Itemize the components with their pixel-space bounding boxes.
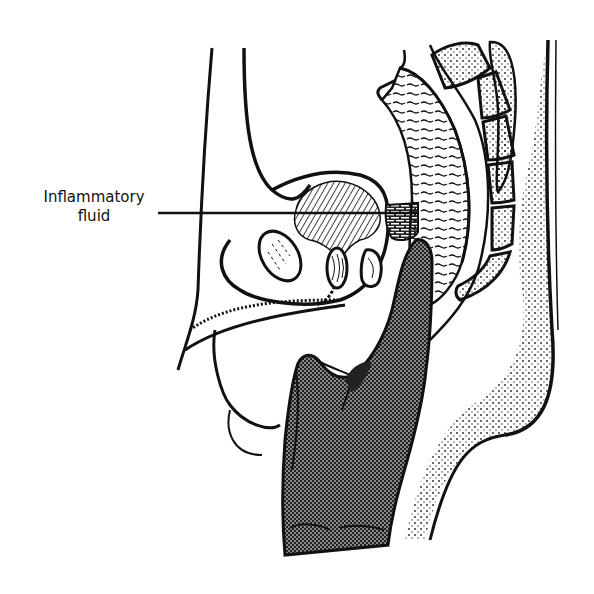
anatomy-drawing: [0, 0, 594, 594]
label-line-1: Inflammatory: [28, 188, 160, 207]
abdominal-wall: [178, 48, 212, 370]
anatomy-figure: Inflammatory fluid: [0, 0, 594, 594]
prostate-apex: [361, 250, 381, 287]
label-inflammatory-fluid: Inflammatory fluid: [28, 188, 160, 226]
gloved-hand: [283, 240, 432, 555]
label-line-2: fluid: [28, 207, 160, 226]
scrotum: [214, 330, 280, 428]
